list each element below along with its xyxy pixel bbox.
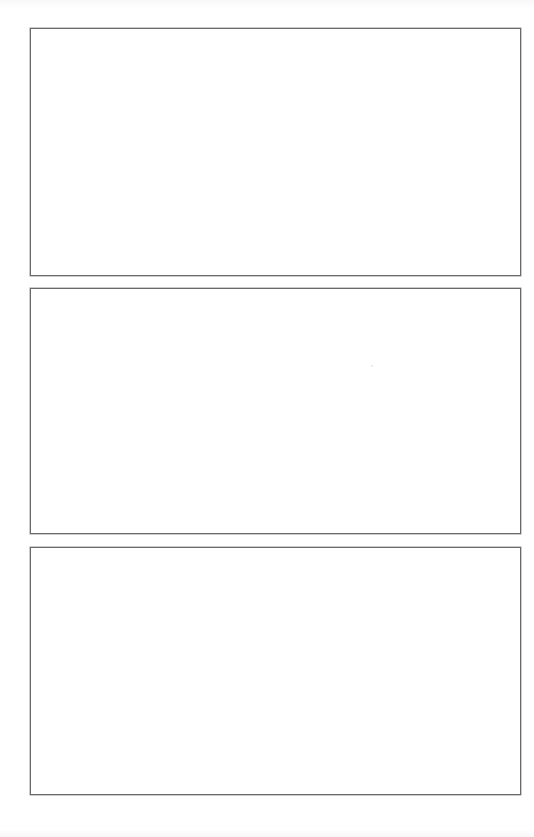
empty-panel-3 (30, 547, 521, 795)
empty-panel-1 (30, 28, 521, 276)
empty-panel-2 (30, 288, 521, 534)
paper-speck (371, 365, 373, 367)
page-bottom-edge (0, 829, 534, 837)
page-top-edge (0, 0, 534, 8)
